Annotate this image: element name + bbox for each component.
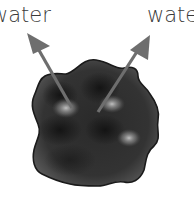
highlight-left: [52, 98, 80, 118]
particle-blob: [32, 60, 158, 186]
diagram-canvas: [0, 0, 194, 200]
water-label-right: water: [147, 5, 194, 26]
highlight-lower-right: [117, 129, 141, 147]
water-label-left: water: [0, 5, 51, 26]
